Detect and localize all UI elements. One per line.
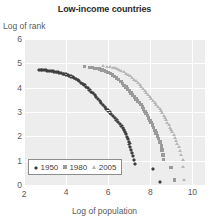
data-point-2005 <box>182 178 186 181</box>
x-tick-label: 2 <box>14 189 34 199</box>
x-tick-label: 8 <box>140 187 160 197</box>
data-point-1980 <box>162 158 165 161</box>
x-tick-label: 6 <box>98 187 118 197</box>
x-tick-label: 10 <box>182 187 202 197</box>
x-tick-label: 4 <box>56 187 76 197</box>
data-point-1980 <box>158 140 161 143</box>
data-point-1980 <box>169 166 172 169</box>
data-point-2005 <box>179 153 183 156</box>
data-point-1950 <box>158 178 162 182</box>
y-tick-label: 2 <box>2 131 22 141</box>
chart-legend[interactable]: 195019802005 <box>28 159 122 175</box>
legend-label: 1980 <box>69 163 87 172</box>
data-point-1950 <box>151 165 155 169</box>
y-tick-label: 6 <box>2 34 22 44</box>
data-point-2005 <box>178 149 182 152</box>
x-axis-label: Log of population <box>0 206 209 216</box>
chart-title: Low-income countries <box>0 4 209 14</box>
data-point-1980 <box>160 148 163 151</box>
x-axis-ticks: 246810 <box>24 187 205 201</box>
gridline-horizontal <box>24 63 205 64</box>
y-tick-label: 1 <box>2 156 22 166</box>
y-tick-label: 3 <box>2 107 22 117</box>
data-point-1980 <box>173 178 176 181</box>
legend-label: 1950 <box>41 163 59 172</box>
legend-marker-square-icon <box>63 165 67 169</box>
gridline-horizontal <box>24 39 205 40</box>
legend-label: 2005 <box>99 163 117 172</box>
gridline-horizontal <box>24 88 205 89</box>
data-point-1980 <box>160 144 163 147</box>
legend-item-2005[interactable]: 2005 <box>92 163 116 172</box>
y-tick-label: 5 <box>2 58 22 68</box>
data-point-1980 <box>161 153 164 156</box>
y-tick-label: 4 <box>2 83 22 93</box>
data-point-1950 <box>133 160 137 164</box>
legend-marker-diamond-icon <box>34 164 38 168</box>
y-axis-label: Log of rank <box>3 21 46 31</box>
legend-item-1950[interactable]: 1950 <box>34 163 58 172</box>
data-point-1980 <box>83 65 86 68</box>
data-point-2005 <box>181 165 185 168</box>
data-point-2005 <box>177 145 181 148</box>
gridline-horizontal <box>24 136 205 137</box>
y-axis-ticks: 0123456 <box>0 39 22 185</box>
legend-item-1980[interactable]: 1980 <box>63 163 87 172</box>
chart-figure: Low-income countries Log of rank 0123456… <box>0 0 209 224</box>
data-point-2005 <box>181 158 185 161</box>
legend-marker-triangle-icon <box>92 165 96 169</box>
